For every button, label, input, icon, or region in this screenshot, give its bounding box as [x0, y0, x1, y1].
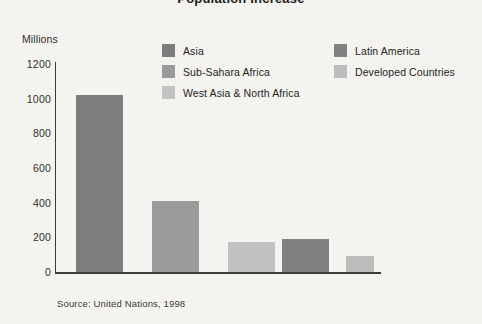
- bar: [152, 201, 199, 272]
- legend-item: Developed Countries: [334, 62, 455, 81]
- legend-item: Sub-Sahara Africa: [162, 62, 300, 81]
- bar: [282, 239, 329, 272]
- legend-swatch-icon: [334, 44, 347, 57]
- legend-item-label: Developed Countries: [355, 66, 455, 78]
- legend-item-label: Sub-Sahara Africa: [183, 66, 270, 78]
- bar: [228, 242, 275, 272]
- legend-item: Latin America: [334, 41, 455, 60]
- bar: [346, 256, 374, 272]
- legend-item: West Asia & North Africa: [162, 83, 300, 102]
- chart-page: Population Increase Millions 12001000800…: [0, 0, 482, 324]
- legend-swatch-icon: [334, 65, 347, 78]
- legend-swatch-icon: [162, 44, 175, 57]
- bar: [76, 95, 123, 272]
- legend-item-label: Latin America: [355, 45, 420, 57]
- legend-swatch-icon: [162, 86, 175, 99]
- legend-item: Asia: [162, 41, 300, 60]
- legend-item-label: West Asia & North Africa: [183, 87, 300, 99]
- source-note: Source: United Nations, 1998: [57, 298, 185, 309]
- legend-column-left: AsiaSub-Sahara AfricaWest Asia & North A…: [162, 41, 300, 104]
- legend-swatch-icon: [162, 65, 175, 78]
- legend-item-label: Asia: [183, 45, 204, 57]
- legend-column-right: Latin AmericaDeveloped Countries: [334, 41, 455, 83]
